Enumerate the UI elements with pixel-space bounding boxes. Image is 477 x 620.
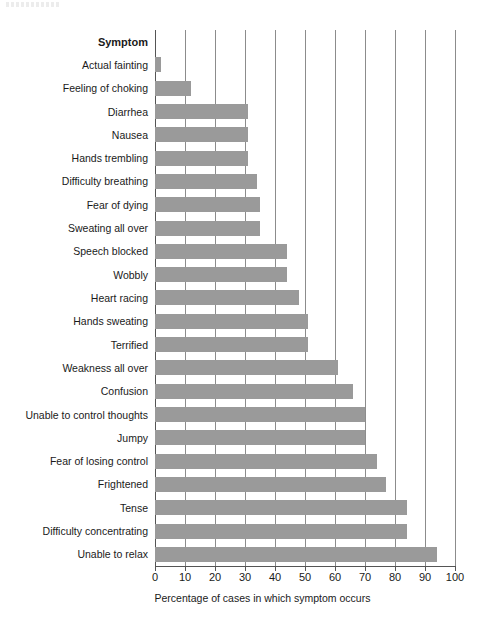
bar-row	[155, 53, 455, 76]
bar-row	[155, 380, 455, 403]
category-label: Heart racing	[0, 292, 148, 304]
bar	[155, 127, 248, 142]
bar	[155, 81, 191, 96]
category-axis-title: Symptom	[0, 36, 148, 48]
bar	[155, 430, 365, 445]
bar-row	[155, 100, 455, 123]
bar	[155, 500, 407, 515]
category-label: Fear of dying	[0, 199, 148, 211]
category-label: Fear of losing control	[0, 455, 148, 467]
bar-row	[155, 310, 455, 333]
bar	[155, 197, 260, 212]
bar-row	[155, 449, 455, 472]
category-label: Hands trembling	[0, 152, 148, 164]
category-label: Nausea	[0, 129, 148, 141]
category-label: Frightened	[0, 478, 148, 490]
category-label: Difficulty concentrating	[0, 525, 148, 537]
category-label: Jumpy	[0, 432, 148, 444]
bar-row	[155, 147, 455, 170]
gridline-100	[455, 30, 456, 566]
bar-row	[155, 193, 455, 216]
x-tick-label: 100	[435, 571, 475, 583]
bar	[155, 454, 377, 469]
category-label: Speech blocked	[0, 245, 148, 257]
bar	[155, 267, 287, 282]
bar-series	[155, 30, 455, 566]
bar	[155, 524, 407, 539]
category-label: Unable to relax	[0, 548, 148, 560]
bar-row	[155, 123, 455, 146]
bar	[155, 151, 248, 166]
category-label: Actual fainting	[0, 59, 148, 71]
scan-artifact	[6, 2, 60, 7]
bar-row	[155, 519, 455, 542]
plot-area	[155, 30, 455, 566]
bar-row	[155, 216, 455, 239]
x-axis-label: Percentage of cases in which symptom occ…	[0, 592, 477, 604]
bar-row	[155, 286, 455, 309]
category-label: Difficulty breathing	[0, 175, 148, 187]
category-label: Sweating all over	[0, 222, 148, 234]
category-label: Confusion	[0, 385, 148, 397]
bar-row	[155, 240, 455, 263]
category-label: Tense	[0, 502, 148, 514]
category-label: Terrified	[0, 339, 148, 351]
bar-row	[155, 170, 455, 193]
bar	[155, 547, 437, 562]
bar	[155, 104, 248, 119]
category-label: Wobbly	[0, 269, 148, 281]
bar-row	[155, 496, 455, 519]
bar	[155, 57, 161, 72]
category-label: Weakness all over	[0, 362, 148, 374]
bar-row	[155, 426, 455, 449]
bar	[155, 477, 386, 492]
bar-row	[155, 543, 455, 566]
category-label: Diarrhea	[0, 106, 148, 118]
category-label: Feeling of choking	[0, 82, 148, 94]
bar	[155, 290, 299, 305]
category-axis-labels: Symptom Actual faintingFeeling of chokin…	[0, 30, 148, 566]
bar-row	[155, 403, 455, 426]
category-label: Hands sweating	[0, 315, 148, 327]
bar-chart: Symptom Actual faintingFeeling of chokin…	[0, 0, 477, 620]
bar	[155, 221, 260, 236]
bar	[155, 174, 257, 189]
category-label: Unable to control thoughts	[0, 409, 148, 421]
bar-row	[155, 77, 455, 100]
bar	[155, 314, 308, 329]
bar	[155, 407, 365, 422]
bar	[155, 244, 287, 259]
bar-row	[155, 263, 455, 286]
bar-row	[155, 333, 455, 356]
bar-row	[155, 356, 455, 379]
x-axis-label-text: Percentage of cases in which symptom occ…	[107, 592, 371, 604]
bar	[155, 337, 308, 352]
bar-row	[155, 473, 455, 496]
bar	[155, 360, 338, 375]
bar	[155, 384, 353, 399]
